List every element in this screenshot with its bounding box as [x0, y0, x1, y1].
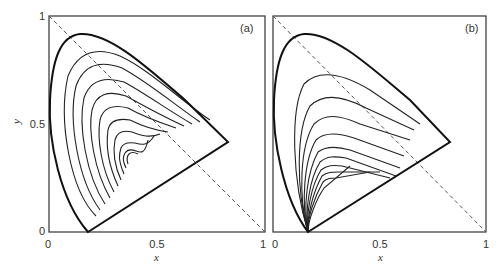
- inner-curves-a: [64, 51, 210, 216]
- figure: 1 0.5 0 0 0.5 1 x y (a) 0 0.5 1 x (b): [0, 0, 504, 276]
- x-label: x: [153, 251, 159, 263]
- panel-label-b: (b): [465, 22, 478, 34]
- ytick-05: 0.5: [30, 118, 45, 130]
- xtick-1: 1: [260, 238, 266, 250]
- xtick-1-b: 1: [483, 238, 489, 250]
- inner-curves-b: [295, 75, 420, 232]
- ytick-0: 0: [39, 225, 45, 237]
- xtick-0: 0: [45, 238, 51, 250]
- x-label-b: x: [377, 251, 383, 263]
- panel-b: 0 0.5 1 x (b): [272, 16, 489, 263]
- ytick-1: 1: [39, 10, 45, 22]
- xtick-05-b: 0.5: [372, 238, 387, 250]
- panel-label-a: (a): [240, 22, 253, 34]
- xtick-0-b: 0: [272, 238, 278, 250]
- xtick-05: 0.5: [149, 238, 164, 250]
- y-label: y: [10, 119, 22, 125]
- panel-a: 1 0.5 0 0 0.5 1 x y (a): [10, 10, 266, 263]
